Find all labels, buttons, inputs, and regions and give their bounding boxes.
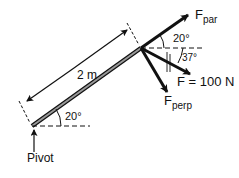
length-dimension-arrow — [27, 68, 74, 101]
length-label: 2 m — [77, 69, 97, 81]
pivot-label: Pivot — [27, 152, 54, 164]
angle-top-label: 20° — [173, 33, 190, 44]
f-par-subscript: par — [203, 14, 217, 25]
angle-force-label: 37° — [182, 53, 197, 63]
f-perp-subscript: perp — [172, 100, 192, 111]
f-par-main: F — [195, 7, 203, 22]
angle-bottom-label: 20° — [65, 111, 82, 122]
dimension-extension-left — [19, 101, 30, 123]
torque-diagram: Fpar 20° 37° F = 100 N Fperp 2 m 20° Piv… — [0, 0, 239, 178]
angle-arc-top — [160, 35, 164, 48]
f-perp-main: F — [164, 93, 172, 108]
f-perp-label: Fperp — [164, 94, 192, 107]
angle-arc-bottom — [56, 109, 61, 126]
dimension-extension-right — [127, 23, 139, 45]
force-label: F = 100 N — [177, 75, 234, 88]
f-par-label: Fpar — [195, 8, 217, 21]
